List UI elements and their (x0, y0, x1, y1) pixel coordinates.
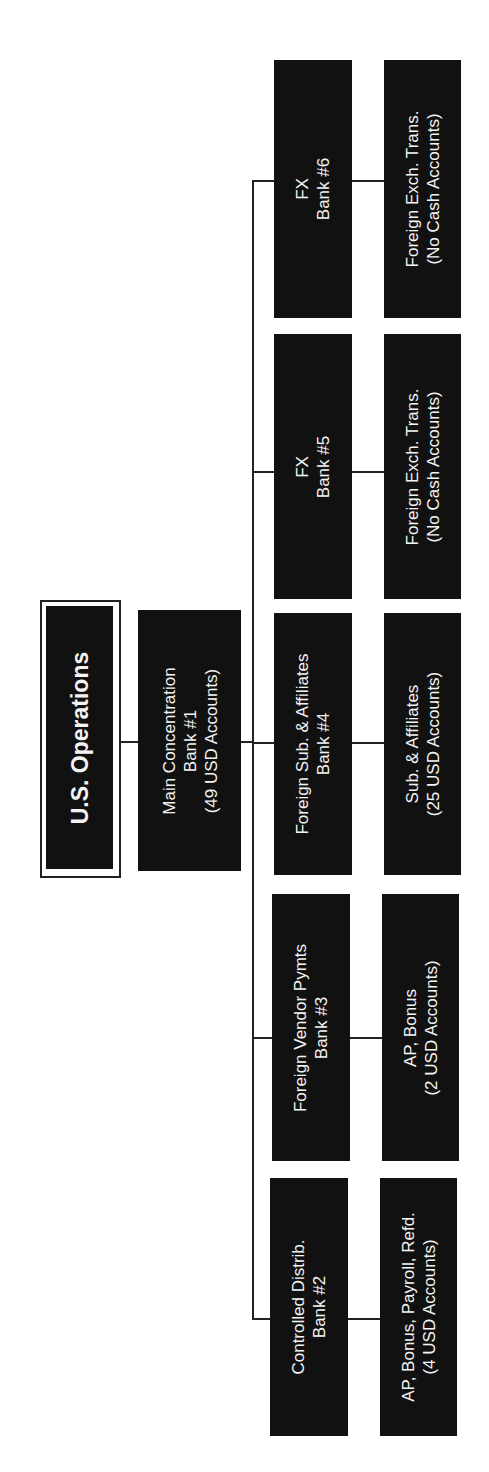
bank3-detail-line-1: AP, Bonus (400, 960, 421, 1095)
bank6-box: FX Bank #6 (274, 60, 352, 318)
bank2-line-2: Bank #2 (309, 1239, 330, 1374)
bank3-box: Foreign Vendor Pymts Bank #3 (272, 894, 350, 1161)
bank4-line-2: Bank #4 (313, 653, 334, 834)
bank6-detail-line-2: (No Cash Accounts) (423, 111, 444, 268)
bank5-detail-line-2: (No Cash Accounts) (423, 388, 444, 545)
bank5-label: FX Bank #5 (292, 435, 334, 497)
bank3-line-1: Foreign Vendor Pymts (290, 943, 311, 1111)
bank1-line-1: Main Concentration (158, 667, 179, 814)
bank3-detail-line-2: (2 USD Accounts) (421, 960, 442, 1095)
bank5-line-1: FX (292, 435, 313, 497)
bank6-detail-label: Foreign Exch. Trans. (No Cash Accounts) (402, 111, 444, 268)
bank2-detail-line-2: (4 USD Accounts) (419, 1212, 440, 1402)
bank1-line-3: (49 USD Accounts) (200, 667, 221, 814)
connector-bank4-to-detail (352, 742, 384, 744)
bank4-line-1: Foreign Sub. & Affiliates (292, 653, 313, 834)
bank2-label: Controlled Distrib. Bank #2 (288, 1239, 330, 1374)
connector-bank3-to-detail (350, 1037, 382, 1039)
us-operations-label: U.S. Operations (67, 651, 93, 824)
bank3-line-2: Bank #3 (311, 943, 332, 1111)
bank2-detail-label: AP, Bonus, Payroll, Refd. (4 USD Account… (398, 1212, 440, 1402)
bank2-box: Controlled Distrib. Bank #2 (270, 1178, 348, 1436)
connector-trunk-to-bank5 (252, 471, 274, 473)
bank4-detail-line-1: Sub. & Affiliates (402, 672, 423, 817)
bank3-detail-box: AP, Bonus (2 USD Accounts) (382, 894, 459, 1161)
bank5-detail-label: Foreign Exch. Trans. (No Cash Accounts) (402, 388, 444, 545)
bank2-line-1: Controlled Distrib. (288, 1239, 309, 1374)
bank2-detail-box: AP, Bonus, Payroll, Refd. (4 USD Account… (380, 1178, 457, 1436)
bank5-box: FX Bank #5 (274, 334, 352, 599)
bank6-detail-line-1: Foreign Exch. Trans. (402, 111, 423, 268)
connector-trunk-to-bank3 (252, 1037, 274, 1039)
bank3-label: Foreign Vendor Pymts Bank #3 (290, 943, 332, 1111)
bank1-box: Main Concentration Bank #1 (49 USD Accou… (138, 610, 241, 871)
bank5-detail-box: Foreign Exch. Trans. (No Cash Accounts) (384, 334, 461, 599)
bank5-detail-line-1: Foreign Exch. Trans. (402, 388, 423, 545)
bank6-detail-box: Foreign Exch. Trans. (No Cash Accounts) (384, 60, 461, 318)
bank1-label: Main Concentration Bank #1 (49 USD Accou… (158, 667, 221, 814)
root-title: U.S. Operations (67, 651, 93, 824)
trunk-line (252, 180, 254, 1319)
bank5-line-2: Bank #5 (313, 435, 334, 497)
connector-bank5-to-detail (352, 471, 384, 473)
connector-trunk-to-bank4 (252, 742, 274, 744)
bank6-line-2: Bank #6 (313, 158, 334, 220)
connector-bank6-to-detail (352, 180, 384, 182)
bank4-detail-box: Sub. & Affiliates (25 USD Accounts) (384, 613, 461, 875)
bank3-detail-label: AP, Bonus (2 USD Accounts) (400, 960, 442, 1095)
bank2-detail-line-1: AP, Bonus, Payroll, Refd. (398, 1212, 419, 1402)
us-operations-box: U.S. Operations (46, 606, 113, 869)
bank4-detail-line-2: (25 USD Accounts) (423, 672, 444, 817)
bank4-box: Foreign Sub. & Affiliates Bank #4 (274, 613, 352, 875)
bank6-line-1: FX (292, 158, 313, 220)
connector-bank2-to-detail (348, 1318, 380, 1320)
bank4-detail-label: Sub. & Affiliates (25 USD Accounts) (402, 672, 444, 817)
connector-root-to-bank1 (121, 741, 138, 743)
bank4-label: Foreign Sub. & Affiliates Bank #4 (292, 653, 334, 834)
bank6-label: FX Bank #6 (292, 158, 334, 220)
bank1-line-2: Bank #1 (179, 667, 200, 814)
connector-trunk-to-bank6 (252, 180, 274, 182)
